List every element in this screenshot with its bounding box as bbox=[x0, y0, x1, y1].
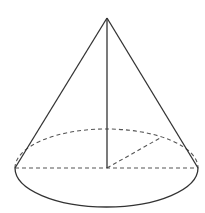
base-front-arc bbox=[15, 168, 198, 207]
slant-left bbox=[15, 18, 107, 168]
base-radius bbox=[107, 138, 160, 168]
slant-right bbox=[107, 18, 198, 168]
cone-diagram bbox=[0, 0, 205, 213]
